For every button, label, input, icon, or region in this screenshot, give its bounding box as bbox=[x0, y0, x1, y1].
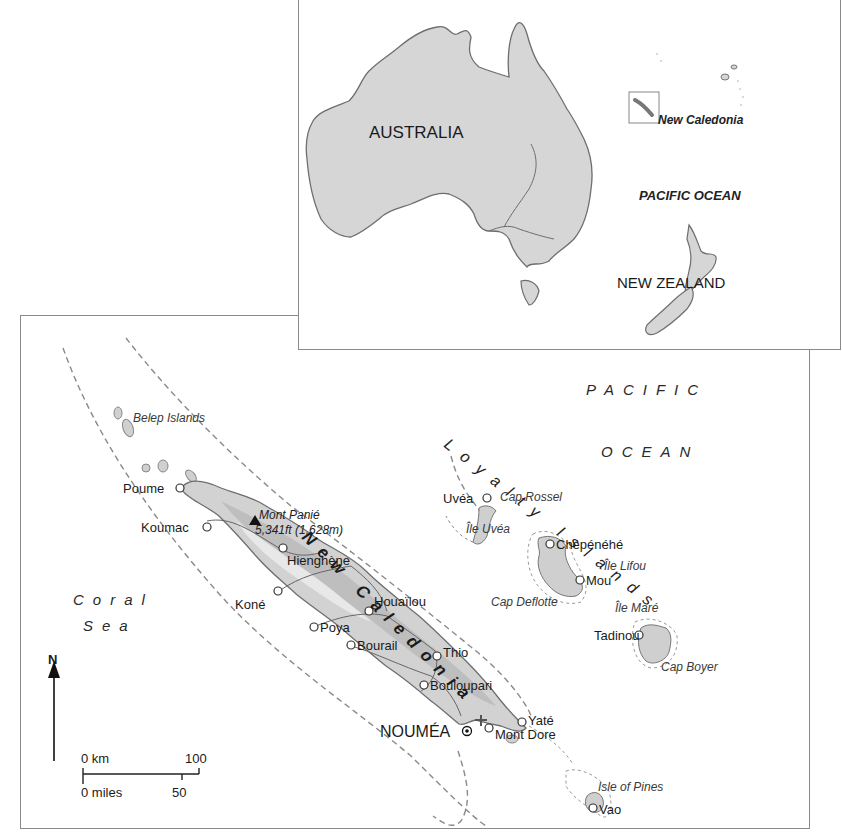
inset-new-caledonia-label: New Caledonia bbox=[658, 114, 743, 126]
town-vao: Vao bbox=[599, 803, 621, 816]
inset-pacific-ocean-label: PACIFIC OCEAN bbox=[639, 189, 741, 202]
north-label: N bbox=[48, 653, 57, 666]
isle-of-pines-label: Isle of Pines bbox=[598, 781, 663, 793]
capital-dot bbox=[465, 729, 469, 733]
inset-map-graphics bbox=[299, 0, 842, 351]
australia-landmass bbox=[306, 23, 592, 267]
scale-km-end: 100 bbox=[185, 752, 207, 765]
town-hienghene: Hienghène bbox=[287, 554, 350, 567]
scale-km-start: 0 km bbox=[81, 752, 109, 765]
australia-label: AUSTRALIA bbox=[369, 124, 463, 141]
pacific-label-line1: PACIFIC bbox=[586, 382, 707, 397]
town-yate: Yaté bbox=[528, 714, 554, 727]
scale-miles-mid: 50 bbox=[172, 786, 186, 799]
town-mou: Mou bbox=[586, 574, 611, 587]
belep-islands-label: Belep Islands bbox=[133, 412, 205, 424]
town-houailou: Houaïlou bbox=[374, 595, 426, 608]
pacific-label-line2: OCEAN bbox=[601, 444, 699, 459]
tasmania bbox=[521, 280, 539, 305]
island-dots bbox=[656, 53, 744, 106]
new-caledonia-inset-shape bbox=[635, 100, 652, 115]
town-kone: Koné bbox=[235, 598, 265, 611]
ile-mare-island bbox=[639, 625, 671, 663]
town-poya: Poya bbox=[320, 621, 350, 634]
main-map: PACIFIC OCEAN Coral Sea New Caledonia Lo… bbox=[20, 315, 810, 829]
town-poume: Poume bbox=[123, 482, 164, 495]
small-island bbox=[721, 74, 729, 80]
cap-deflotte-label: Cap Deflotte bbox=[491, 596, 558, 608]
small-island bbox=[731, 65, 737, 69]
scale-bar bbox=[83, 768, 199, 784]
town-bourail: Bourail bbox=[357, 639, 397, 652]
ile-uvea-label: Île Uvéa bbox=[466, 523, 510, 535]
cap-rossel-label: Cap Rossel bbox=[500, 491, 562, 503]
new-zealand-label: NEW ZEALAND bbox=[617, 275, 725, 290]
ile-lifou-label: Île Lifou bbox=[604, 560, 646, 572]
cap-boyer-label: Cap Boyer bbox=[661, 661, 718, 673]
town-uvea: Uvéa bbox=[443, 492, 473, 505]
inset-map: AUSTRALIA New Caledonia PACIFIC OCEAN NE… bbox=[298, 0, 841, 350]
town-thio: Thio bbox=[443, 646, 468, 659]
town-koumac: Koumac bbox=[141, 521, 189, 534]
coral-sea-label-line2: Sea bbox=[83, 618, 137, 633]
scale-miles-start: 0 miles bbox=[81, 786, 122, 799]
mont-panie-elevation: 5,341ft (1,628m) bbox=[255, 524, 343, 536]
town-chepenehe: Chépénéhé bbox=[556, 538, 623, 551]
coral-sea-label-line1: Coral bbox=[73, 592, 154, 607]
new-zealand-south-island bbox=[646, 287, 693, 335]
town-mont-dore: Mont Dore bbox=[495, 728, 556, 741]
noumea-label: NOUMÉA bbox=[380, 724, 450, 740]
ile-mare-label: Île Maré bbox=[615, 602, 658, 614]
town-tadinou: Tadinou bbox=[594, 629, 640, 642]
town-bouloupari: Bouloupari bbox=[430, 679, 492, 692]
mont-panie-label: Mont Panié bbox=[259, 509, 320, 521]
